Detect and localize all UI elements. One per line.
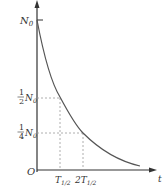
t-half-label: T1/2 (55, 175, 71, 186)
decay-curve (37, 20, 140, 166)
two-t-half-label: 2T1/2 (74, 175, 97, 186)
svg-text:4: 4 (19, 132, 24, 141)
quarter-n0-label: 1 4 N0 (18, 123, 37, 141)
svg-text:2: 2 (19, 97, 24, 106)
svg-text:N0: N0 (24, 128, 37, 139)
n0-label: N0 (19, 15, 34, 28)
t-axis-label: t (158, 174, 162, 184)
half-n0-label: 1 2 N0 (18, 88, 37, 106)
y-axis-arrow-icon (35, 0, 40, 8)
decay-diagram: N0 1 2 N0 1 4 N0 O T1/2 2T1/2 t (0, 0, 165, 192)
origin-label: O (27, 166, 35, 177)
svg-text:1: 1 (19, 123, 24, 132)
x-axis-arrow-icon (149, 168, 157, 173)
svg-text:1: 1 (19, 88, 24, 97)
svg-text:N0: N0 (24, 93, 37, 104)
